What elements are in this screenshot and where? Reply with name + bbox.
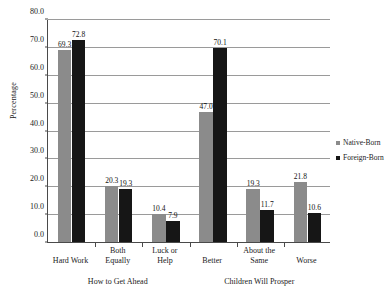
group-label: How to Get Ahead <box>47 277 189 286</box>
bar-group: 20.319.3 <box>95 20 142 243</box>
y-tick-label: 30.0 <box>30 146 44 155</box>
bar-value-label: 70.1 <box>214 38 227 47</box>
y-axis-title: Percentage <box>9 56 18 146</box>
category-label: Luck or Help <box>141 246 188 265</box>
bar-value-label: 10.4 <box>152 204 165 213</box>
bars-layer: 69.372.820.319.310.47.947.070.119.311.72… <box>48 20 330 243</box>
y-tick-label: 50.0 <box>30 90 44 99</box>
y-tick-label: 10.0 <box>30 202 44 211</box>
y-tick-label: 20.0 <box>30 174 44 183</box>
chart-legend: Native-BornForeign-Born <box>336 138 392 168</box>
category-label: Hard Work <box>47 256 94 266</box>
bar[interactable]: 70.1 <box>213 48 227 243</box>
bar-chart: Percentage 0.010.020.030.040.050.060.070… <box>0 0 392 297</box>
bar[interactable]: 69.3 <box>58 50 72 243</box>
y-tick-label: 0.0 <box>34 230 44 239</box>
bar[interactable]: 10.6 <box>308 213 322 243</box>
category-label: Worse <box>283 256 330 266</box>
legend-label: Native-Born <box>343 138 381 147</box>
bar-value-label: 21.8 <box>294 172 307 181</box>
bar-value-label: 72.8 <box>72 30 85 39</box>
bar-value-label: 7.9 <box>168 211 177 220</box>
bar-value-label: 20.3 <box>105 176 118 185</box>
bar-group: 69.372.8 <box>48 20 95 243</box>
legend-item[interactable]: Foreign-Born <box>336 153 392 162</box>
bar-value-label: 11.7 <box>261 200 274 209</box>
bar-group: 10.47.9 <box>142 20 189 243</box>
x-axis-line <box>48 242 330 243</box>
bar-value-label: 47.0 <box>200 102 213 111</box>
bar[interactable]: 11.7 <box>260 210 274 243</box>
bar-value-label: 19.3 <box>247 179 260 188</box>
legend-label: Foreign-Born <box>343 153 384 162</box>
category-labels: Hard WorkBoth EquallyLuck or HelpBetterA… <box>47 246 330 272</box>
bar[interactable]: 7.9 <box>166 221 180 243</box>
category-label: Both Equally <box>94 246 141 265</box>
y-tick-label: 60.0 <box>30 62 44 71</box>
bar[interactable]: 20.3 <box>105 186 119 243</box>
legend-item[interactable]: Native-Born <box>336 138 392 147</box>
group-label: Children Will Prosper <box>189 277 331 286</box>
bar[interactable]: 19.3 <box>119 189 133 243</box>
category-label: About the Same <box>236 246 283 265</box>
legend-swatch-icon <box>336 141 340 145</box>
plot-area: 0.010.020.030.040.050.060.070.080.0 69.3… <box>47 20 330 243</box>
bar-group: 21.810.6 <box>284 20 331 243</box>
bar-value-label: 69.3 <box>58 40 71 49</box>
bar[interactable]: 72.8 <box>72 40 86 243</box>
y-tick-label: 70.0 <box>30 34 44 43</box>
bar[interactable]: 47.0 <box>199 112 213 243</box>
bar-group: 19.311.7 <box>237 20 284 243</box>
y-tick-label: 80.0 <box>30 7 44 16</box>
bar-value-label: 10.6 <box>308 203 321 212</box>
bar[interactable]: 19.3 <box>246 189 260 243</box>
category-label: Better <box>189 256 236 266</box>
legend-swatch-icon <box>336 156 340 160</box>
y-tick-label: 40.0 <box>30 118 44 127</box>
bar[interactable]: 21.8 <box>294 182 308 243</box>
bar-group: 47.070.1 <box>190 20 237 243</box>
bar-value-label: 19.3 <box>119 179 132 188</box>
bar[interactable]: 10.4 <box>152 214 166 243</box>
